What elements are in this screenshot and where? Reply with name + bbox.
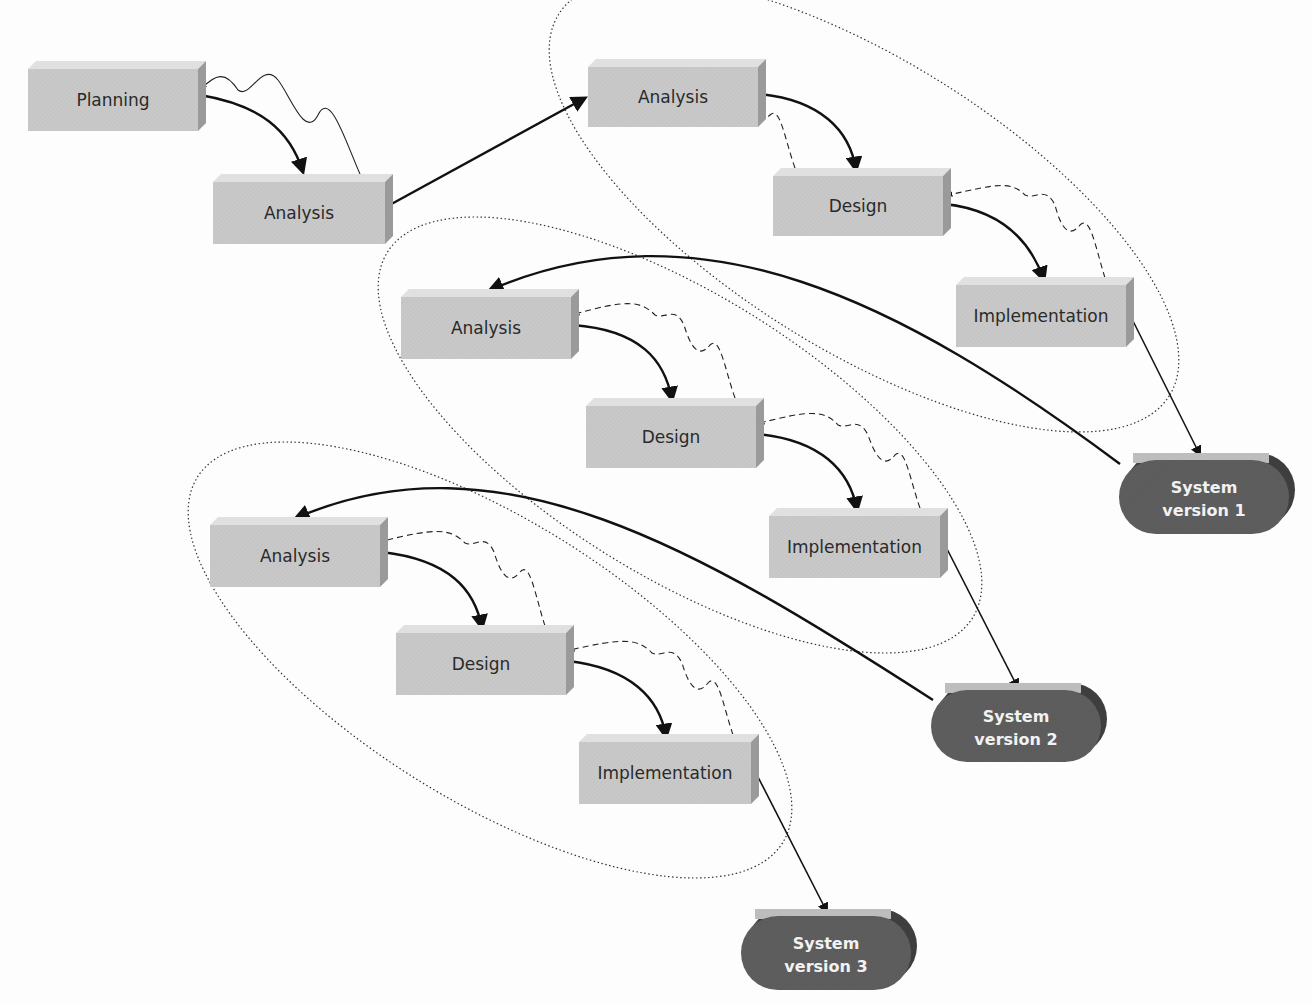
phase-box-implementation-3: Implementation bbox=[579, 734, 759, 804]
box-top-face bbox=[588, 59, 766, 67]
box-top-face bbox=[213, 174, 393, 182]
arrow-v2-analysis-to-design bbox=[573, 325, 672, 400]
system-label-line2: version 1 bbox=[1162, 501, 1245, 520]
box-top-face bbox=[401, 289, 579, 297]
system-label-line1: System bbox=[983, 707, 1050, 726]
system-front-face bbox=[931, 690, 1101, 762]
system-label-line2: version 3 bbox=[784, 957, 867, 976]
box-top-face bbox=[769, 508, 948, 516]
phase-label: Analysis bbox=[264, 203, 334, 223]
feedback-analysis-to-planning bbox=[202, 74, 360, 174]
system-label-line1: System bbox=[793, 934, 860, 953]
system-label-line1: System bbox=[1171, 478, 1238, 497]
box-side-face bbox=[943, 168, 951, 236]
phase-label: Design bbox=[642, 427, 701, 447]
system-label-line2: version 2 bbox=[974, 730, 1057, 749]
arrow-v3-implementation-to-system3 bbox=[756, 773, 827, 912]
box-side-face bbox=[385, 174, 393, 244]
box-top-face bbox=[956, 277, 1134, 285]
system-version-3: Systemversion 3 bbox=[741, 909, 917, 990]
feedback-v3-design-to-analysis bbox=[383, 531, 545, 626]
cycle-groups bbox=[123, 0, 1246, 962]
box-side-face bbox=[758, 59, 766, 127]
phase-box-analysis-2: Analysis bbox=[401, 289, 579, 359]
arrow-v1-design-to-implementation bbox=[945, 204, 1044, 280]
phase-box-analysis-0: Analysis bbox=[213, 174, 393, 244]
arrow-v2-implementation-to-system2 bbox=[945, 545, 1018, 688]
feedback-v3-implementation-to-design bbox=[570, 641, 733, 735]
box-side-face bbox=[1126, 277, 1134, 347]
box-side-face bbox=[566, 625, 574, 695]
system-version-2: Systemversion 2 bbox=[931, 683, 1107, 762]
arrow-planning-to-analysis bbox=[200, 95, 303, 172]
phase-label: Design bbox=[829, 196, 888, 216]
system-front-face bbox=[741, 916, 911, 990]
box-side-face bbox=[571, 289, 579, 359]
arrow-analysis-to-version1 bbox=[386, 98, 585, 207]
arrow-v3-analysis-to-design bbox=[382, 552, 482, 628]
box-side-face bbox=[198, 61, 206, 131]
box-top-face bbox=[28, 61, 206, 69]
system-front-face bbox=[1119, 460, 1289, 534]
feedback-v1-implementation-to-design bbox=[948, 186, 1105, 278]
phase-label: Analysis bbox=[638, 87, 708, 107]
box-top-face bbox=[586, 398, 764, 406]
phase-label: Analysis bbox=[451, 318, 521, 338]
phase-label: Design bbox=[452, 654, 511, 674]
phase-label: Planning bbox=[76, 90, 149, 110]
arrow-v3-design-to-implementation bbox=[568, 661, 666, 737]
arrow-v1-implementation-to-system1 bbox=[1130, 315, 1200, 455]
phase-box-analysis-3: Analysis bbox=[210, 517, 388, 587]
feedback-v2-design-to-analysis bbox=[575, 304, 735, 398]
diagram-canvas: PlanningAnalysisAnalysisDesignImplementa… bbox=[0, 0, 1312, 1005]
phase-label: Analysis bbox=[260, 546, 330, 566]
box-side-face bbox=[940, 508, 948, 578]
box-side-face bbox=[380, 517, 388, 587]
phase-box-design-2: Design bbox=[586, 398, 764, 468]
phase-label: Implementation bbox=[598, 763, 733, 783]
system-version-1: Systemversion 1 bbox=[1119, 453, 1295, 534]
box-side-face bbox=[751, 734, 759, 804]
phase-box-design-3: Design bbox=[396, 625, 574, 695]
box-top-face bbox=[773, 168, 951, 176]
phase-box-implementation-1: Implementation bbox=[956, 277, 1134, 347]
iterative-development-diagram: PlanningAnalysisAnalysisDesignImplementa… bbox=[0, 0, 1312, 1005]
feedback-v2-implementation-to-design bbox=[760, 413, 920, 508]
box-top-face bbox=[579, 734, 759, 742]
phase-label: Implementation bbox=[974, 306, 1109, 326]
box-side-face bbox=[756, 398, 764, 468]
phase-label: Implementation bbox=[787, 537, 922, 557]
phase-box-analysis-1: Analysis bbox=[588, 59, 766, 127]
box-top-face bbox=[396, 625, 574, 633]
arrow-v2-design-to-implementation bbox=[758, 434, 857, 510]
phase-box-implementation-2: Implementation bbox=[769, 508, 948, 578]
phase-box-design-1: Design bbox=[773, 168, 951, 236]
box-top-face bbox=[210, 517, 388, 525]
arrow-v1-analysis-to-design bbox=[760, 94, 856, 170]
phase-box-planning: Planning bbox=[28, 61, 206, 131]
